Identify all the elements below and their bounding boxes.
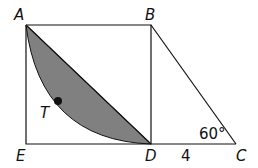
length-label: 4: [181, 147, 191, 165]
label-a: A: [13, 6, 24, 24]
angle-label: 60°: [199, 125, 226, 143]
label-b: B: [145, 6, 155, 24]
label-e: E: [16, 147, 26, 165]
geometry-diagram: A B C D E T 60° 4: [0, 0, 258, 168]
label-t: T: [40, 104, 51, 122]
label-d: D: [145, 147, 157, 165]
point-t-dot: [54, 97, 62, 105]
label-c: C: [236, 147, 247, 165]
